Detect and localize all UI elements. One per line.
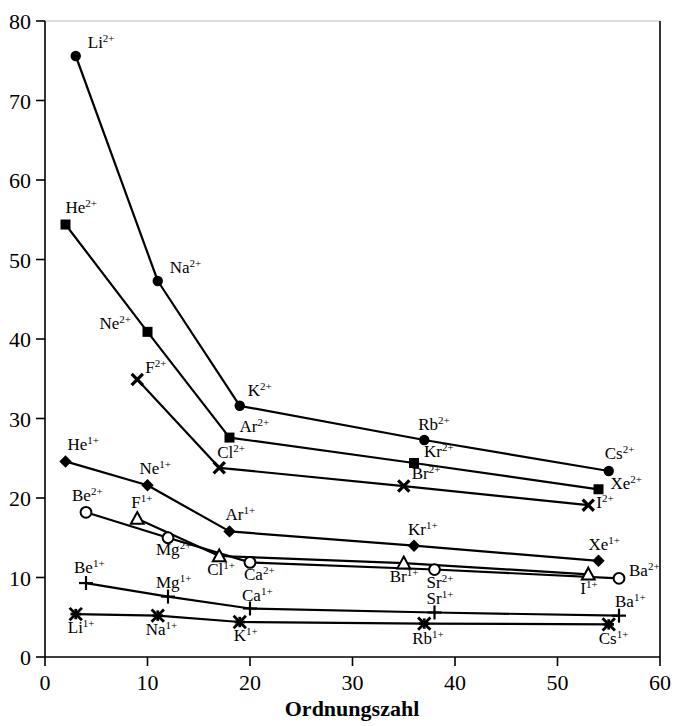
- data-marker-open-circle: [614, 573, 625, 584]
- y-tick-label: 20: [9, 486, 31, 511]
- ionization-energy-line-chart: Li2+Na2+K2+Rb2+Cs2+He2+Ne2+Ar2+Kr2+Xe2+F…: [0, 0, 683, 726]
- x-tick-label: 30: [342, 670, 364, 695]
- data-marker-filled-circle: [71, 51, 81, 61]
- y-tick-label: 40: [9, 327, 31, 352]
- data-marker-filled-circle: [153, 276, 163, 286]
- x-tick-label: 50: [547, 670, 569, 695]
- y-tick-label: 50: [9, 248, 31, 273]
- y-tick-label: 10: [9, 566, 31, 591]
- y-axis-ticks: [36, 21, 45, 657]
- y-tick-label: 30: [9, 407, 31, 432]
- x-tick-label: 60: [649, 670, 671, 695]
- data-marker-filled-circle: [235, 401, 245, 411]
- x-axis-title: Ordnungszahl: [285, 696, 420, 721]
- y-tick-label: 0: [20, 645, 31, 670]
- y-axis-tick-labels: 01020304050607080: [9, 9, 31, 670]
- x-tick-label: 40: [444, 670, 466, 695]
- data-marker-open-circle: [81, 507, 92, 518]
- x-axis-ticks: [45, 657, 660, 666]
- x-tick-label: 10: [137, 670, 159, 695]
- y-tick-label: 60: [9, 168, 31, 193]
- x-axis-tick-labels: 0102030405060: [40, 670, 672, 695]
- x-tick-label: 20: [239, 670, 261, 695]
- data-marker-filled-square: [61, 220, 71, 230]
- y-tick-label: 80: [9, 9, 31, 34]
- x-tick-label: 0: [40, 670, 51, 695]
- chart-figure: Li2+Na2+K2+Rb2+Cs2+He2+Ne2+Ar2+Kr2+Xe2+F…: [0, 0, 683, 726]
- y-tick-label: 70: [9, 89, 31, 114]
- data-marker-filled-square: [143, 327, 153, 337]
